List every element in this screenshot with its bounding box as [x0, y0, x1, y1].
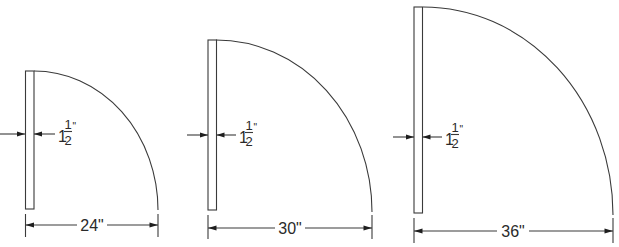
width-dimension: 24"	[26, 214, 159, 237]
door-swing-arc	[34, 71, 158, 210]
thickness-dimension: 1 1 2 "	[393, 120, 464, 151]
width-dimension: 30"	[208, 215, 372, 239]
arrowhead-icon	[208, 226, 217, 231]
width-label: 24"	[80, 217, 103, 234]
door-diagram-30: 1 1 2 " 30"	[187, 40, 372, 239]
door-diagram-24: 1 1 2 " 24"	[0, 71, 158, 237]
arrowhead-icon	[150, 223, 159, 228]
door-swing-diagram: 1 1 2 " 24" 1 1 2 "	[0, 0, 619, 247]
thickness-numerator: 1	[246, 118, 253, 133]
width-dimension: 36"	[414, 218, 613, 243]
thickness-dimension: 1 1 2 "	[0, 117, 77, 148]
arrowhead-icon	[34, 132, 42, 137]
arrowhead-icon	[26, 223, 35, 228]
door-leaf	[26, 71, 35, 209]
thickness-denominator: 2	[452, 136, 459, 151]
arrowhead-icon	[17, 132, 25, 137]
door-swing-arc	[216, 40, 372, 212]
door-diagram-36: 1 1 2 " 36"	[393, 7, 613, 243]
thickness-denominator: 2	[246, 134, 253, 149]
arrowhead-icon	[605, 229, 614, 234]
arrowhead-icon	[423, 135, 431, 140]
arrowhead-icon	[200, 133, 208, 138]
arrowhead-icon	[364, 226, 373, 231]
thickness-dimension: 1 1 2 "	[187, 118, 258, 149]
width-label: 30"	[278, 220, 301, 237]
thickness-denominator: 2	[65, 133, 72, 148]
door-swing-arc	[423, 7, 613, 215]
thickness-unit: "	[73, 121, 77, 132]
door-leaf	[208, 40, 217, 210]
thickness-numerator: 1	[65, 117, 72, 132]
arrowhead-icon	[414, 229, 423, 234]
thickness-unit: "	[460, 124, 464, 135]
arrowhead-icon	[406, 135, 414, 140]
width-label: 36"	[501, 223, 524, 240]
thickness-numerator: 1	[452, 120, 459, 135]
thickness-unit: "	[254, 122, 258, 133]
arrowhead-icon	[217, 133, 225, 138]
door-leaf	[414, 7, 423, 213]
